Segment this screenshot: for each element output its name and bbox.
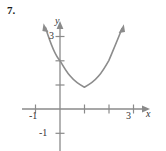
x-tick-label-neg1: -1 — [29, 111, 37, 121]
x-axis-label: x — [146, 109, 150, 119]
y-tick-label-neg1: -1 — [39, 128, 47, 138]
y-axis-label: y — [55, 16, 59, 26]
x-tick-label-3: 3 — [126, 111, 131, 121]
graph-canvas — [0, 0, 166, 151]
y-tick-label-3: 3 — [49, 31, 54, 41]
curve-left-arrow-icon — [42, 23, 48, 32]
curve-right-arrow-icon — [119, 24, 125, 33]
